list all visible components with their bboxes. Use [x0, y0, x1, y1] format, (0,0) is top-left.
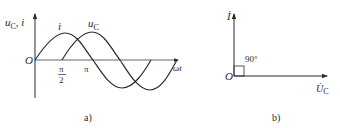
caption-a: a)	[84, 112, 92, 124]
caption-b: b)	[272, 112, 280, 124]
svg-text:π: π	[59, 64, 64, 74]
y-axis-label: uC, i	[5, 16, 24, 31]
angle-label: 90°	[245, 54, 258, 64]
curve-label-i: i	[58, 20, 61, 32]
tick-pi-half: π 2	[58, 64, 66, 85]
origin-label-b: O	[225, 70, 233, 82]
x-axis-label: ωt	[173, 63, 182, 73]
tick-pi: π	[84, 64, 89, 74]
svg-text:2: 2	[59, 75, 64, 85]
panel-b-phasor: 90° O İ U̇C b)	[225, 10, 329, 124]
voltage-phasor-label: U̇C	[316, 83, 329, 96]
panel-a-waveform: uC, i O i uC π 2 π ωt a)	[5, 14, 182, 124]
capacitor-phase-diagram: uC, i O i uC π 2 π ωt a) 90° O İ U̇C b)	[0, 0, 340, 128]
current-phasor-label: İ	[226, 10, 232, 22]
curve-label-uc: uC	[88, 17, 99, 32]
origin-label-a: O	[25, 54, 33, 66]
right-angle-marker	[234, 66, 244, 76]
